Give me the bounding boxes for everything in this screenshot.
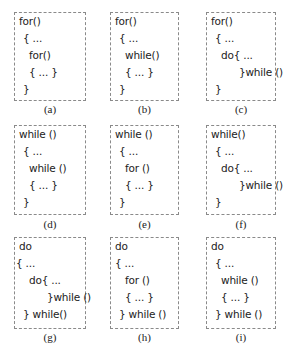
code-line: }	[23, 83, 29, 95]
code-line: { ...	[215, 257, 234, 269]
code-line: for()	[115, 15, 137, 27]
code-line: { ...	[16, 257, 35, 269]
panel-label-e: (e)	[125, 218, 165, 230]
code-line: while ()	[115, 128, 152, 140]
code-line: while()	[125, 49, 159, 61]
code-line: } while()	[23, 308, 67, 320]
panel-label-h: (h)	[125, 331, 165, 343]
code-line: { ...	[119, 32, 138, 44]
code-line: { ...	[215, 32, 234, 44]
panel-label-i: (i)	[221, 331, 261, 343]
code-line: { ... }	[29, 66, 58, 78]
code-line: { ...	[119, 145, 138, 157]
code-line: while ()	[29, 162, 66, 174]
code-line: do	[115, 240, 128, 252]
code-line: { ... }	[125, 291, 154, 303]
panel-label-b: (b)	[125, 103, 165, 115]
code-line: { ... }	[125, 179, 154, 191]
code-line: while()	[211, 128, 245, 140]
code-line: for()	[29, 49, 51, 61]
code-line: }	[119, 196, 125, 208]
code-line: { ... }	[221, 291, 250, 303]
code-line: for()	[19, 15, 41, 27]
code-line: { ...	[23, 32, 42, 44]
code-line: }	[215, 83, 221, 95]
code-line: { ... }	[125, 66, 154, 78]
code-line: }	[23, 196, 29, 208]
code-line: }while ()	[239, 179, 283, 191]
code-line: { ...	[23, 145, 42, 157]
code-line: do{ ...	[221, 49, 253, 61]
panel-label-f: (f)	[221, 218, 261, 230]
code-line: for ()	[125, 162, 150, 174]
code-line: do{ ...	[221, 162, 253, 174]
code-line: for()	[211, 15, 233, 27]
code-line: }while ()	[47, 291, 91, 303]
code-line: } while ()	[119, 308, 166, 320]
code-line: while ()	[19, 128, 56, 140]
panel-label-d: (d)	[30, 218, 70, 230]
code-line: { ...	[215, 145, 234, 157]
code-line: }	[215, 196, 221, 208]
code-line: } while ()	[215, 308, 262, 320]
code-line: }	[119, 83, 125, 95]
code-line: for ()	[125, 274, 150, 286]
code-line: }while ()	[239, 66, 283, 78]
panel-label-a: (a)	[30, 103, 70, 115]
code-line: do	[19, 240, 32, 252]
code-line: { ...	[115, 257, 134, 269]
code-line: do{ ...	[29, 274, 61, 286]
code-line: while ()	[221, 274, 258, 286]
code-line: do	[211, 240, 224, 252]
code-line: { ... }	[29, 179, 58, 191]
panel-label-c: (c)	[221, 103, 261, 115]
panel-label-g: (g)	[30, 331, 70, 343]
